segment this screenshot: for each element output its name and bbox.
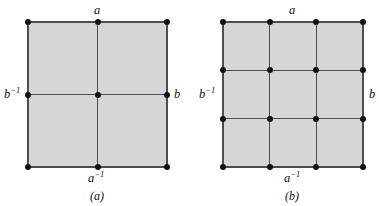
label-b-top: a	[289, 4, 295, 17]
grid-vertex-b-3-3	[360, 164, 366, 170]
grid-vertex-b-2-3	[360, 116, 366, 122]
label-a-top: a	[94, 4, 100, 17]
caption-b: (b)	[285, 190, 299, 202]
grid-line-vertical-b-1	[269, 22, 271, 167]
grid-vertex-a-1-0	[25, 92, 31, 98]
label-a-bottom-exponent: −1	[94, 169, 104, 179]
label-a-bottom: a−1	[88, 172, 104, 185]
grid-vertex-b-3-2	[313, 164, 319, 170]
grid-line-horizontal-b-0	[223, 21, 363, 23]
grid-vertex-b-2-0	[220, 116, 226, 122]
grid-square-b	[223, 22, 363, 167]
label-a-left: b−1	[4, 88, 20, 101]
label-a-left-exponent: −1	[10, 85, 20, 95]
label-b-right: b	[369, 88, 375, 101]
caption-a: (a)	[90, 190, 104, 202]
grid-vertex-b-2-2	[313, 116, 319, 122]
grid-vertex-b-3-0	[220, 164, 226, 170]
grid-vertex-a-0-1	[95, 19, 101, 25]
grid-vertex-b-1-1	[267, 67, 273, 73]
grid-vertex-b-3-1	[267, 164, 273, 170]
label-a-right-text: b	[174, 87, 180, 101]
grid-vertex-b-1-3	[360, 67, 366, 73]
grid-vertex-a-0-2	[164, 19, 170, 25]
grid-vertex-a-1-2	[164, 92, 170, 98]
grid-vertex-b-0-1	[267, 19, 273, 25]
label-b-bottom-exponent: −1	[290, 169, 300, 179]
grid-line-horizontal-b-1	[223, 70, 363, 72]
grid-line-vertical-b-3	[362, 22, 364, 167]
grid-line-horizontal-b-2	[223, 118, 363, 120]
grid-vertex-b-0-3	[360, 19, 366, 25]
grid-line-horizontal-b-3	[223, 166, 363, 168]
label-b-top-text: a	[289, 3, 295, 17]
label-a-top-text: a	[94, 3, 100, 17]
figure-root: a a−1 b−1 b (a) a a−1 b−1 b (b)	[0, 0, 379, 206]
grid-vertex-b-0-0	[220, 19, 226, 25]
grid-vertex-a-2-2	[164, 164, 170, 170]
label-a-right: b	[174, 88, 180, 101]
grid-line-vertical-b-2	[316, 22, 318, 167]
grid-vertex-a-1-1	[95, 92, 101, 98]
label-b-right-text: b	[369, 87, 375, 101]
label-b-bottom: a−1	[284, 172, 300, 185]
grid-vertex-b-2-1	[267, 116, 273, 122]
grid-vertex-a-2-0	[25, 164, 31, 170]
label-b-left-exponent: −1	[205, 85, 215, 95]
grid-line-vertical-b-0	[222, 22, 224, 167]
label-b-left: b−1	[199, 88, 215, 101]
grid-vertex-a-0-0	[25, 19, 31, 25]
